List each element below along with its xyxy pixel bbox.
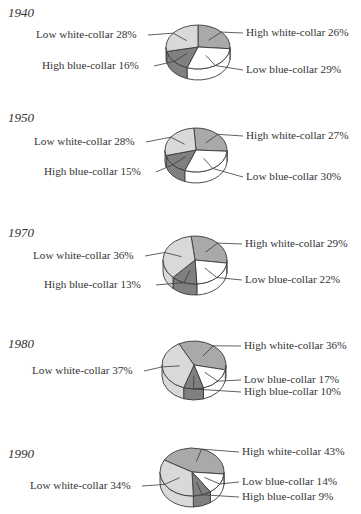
label-low-white-collar: Low white-collar 37%	[32, 364, 133, 376]
label-high-blue-collar: High blue-collar 16%	[42, 59, 139, 71]
label-high-white-collar: High white-collar 43%	[242, 445, 345, 457]
label-low-blue-collar: Low blue-collar 29%	[246, 63, 341, 75]
label-low-blue-collar: Low blue-collar 17%	[244, 373, 339, 385]
pie-chart	[0, 100, 361, 200]
pie-panel-1970: 1970 High white-collar 29% Low blue-coll…	[0, 200, 361, 310]
pie-chart-figure: 1940 High white-collar 26% Low blue-coll…	[0, 0, 361, 514]
label-high-white-collar: High white-collar 27%	[246, 129, 349, 141]
label-low-white-collar: Low white-collar 34%	[30, 479, 131, 491]
pie-panel-1940: 1940 High white-collar 26% Low blue-coll…	[0, 0, 361, 100]
label-high-blue-collar: High blue-collar 15%	[44, 165, 141, 177]
label-high-blue-collar: High blue-collar 9%	[242, 490, 333, 502]
pie-panel-1980: 1980 High white-collar 36% Low blue-coll…	[0, 310, 361, 410]
pie-chart	[0, 0, 361, 100]
pie-panel-1990: 1990 High white-collar 43% Low blue-coll…	[0, 410, 361, 514]
label-low-blue-collar: Low blue-collar 14%	[242, 475, 337, 487]
label-high-blue-collar: High blue-collar 10%	[244, 385, 341, 397]
label-high-white-collar: High white-collar 26%	[246, 26, 349, 38]
label-high-white-collar: High white-collar 36%	[244, 339, 347, 351]
label-high-white-collar: High white-collar 29%	[245, 237, 348, 249]
label-low-blue-collar: Low blue-collar 22%	[245, 273, 340, 285]
label-low-blue-collar: Low blue-collar 30%	[246, 170, 341, 182]
label-low-white-collar: Low white-collar 28%	[36, 28, 137, 40]
label-low-white-collar: Low white-collar 28%	[34, 135, 135, 147]
label-low-white-collar: Low white-collar 36%	[33, 249, 134, 261]
pie-panel-1950: 1950 High white-collar 27% Low blue-coll…	[0, 100, 361, 200]
label-high-blue-collar: High blue-collar 13%	[44, 278, 141, 290]
